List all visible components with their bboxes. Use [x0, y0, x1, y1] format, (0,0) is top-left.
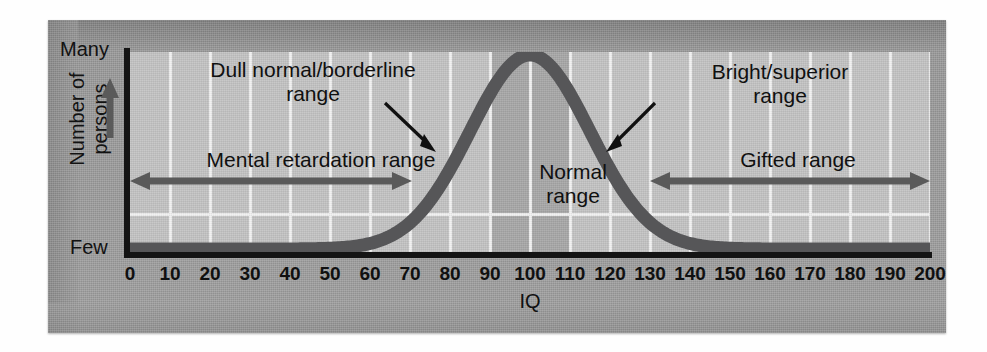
x-tick-140: 140 — [674, 263, 706, 285]
y-axis-title-line2: persons — [89, 83, 111, 154]
x-tick-200: 200 — [914, 263, 946, 285]
x-tick-160: 160 — [754, 263, 786, 285]
bright-superior-line2: range — [753, 84, 807, 107]
x-axis-line — [124, 252, 932, 258]
gridline-110 — [569, 52, 572, 253]
x-axis-title: IQ — [130, 290, 930, 313]
normal-range-line2: range — [546, 184, 600, 207]
mental-retardation-label: Mental retardation range — [126, 148, 516, 172]
y-axis-title-line1: Number of — [66, 72, 88, 165]
x-tick-120: 120 — [594, 263, 626, 285]
gridline-120 — [609, 52, 612, 253]
x-tick-50: 50 — [319, 263, 340, 285]
x-tick-90: 90 — [479, 263, 500, 285]
x-axis-tick-labels: 0102030405060708090100110120130140150160… — [130, 263, 930, 289]
x-tick-70: 70 — [399, 263, 420, 285]
x-tick-0: 0 — [125, 263, 136, 285]
y-axis-title: Number ofpersons — [66, 44, 112, 194]
figure-frame: Many Few Number ofpersons — [48, 20, 946, 333]
x-tick-20: 20 — [199, 263, 220, 285]
x-tick-170: 170 — [794, 263, 826, 285]
x-tick-130: 130 — [634, 263, 666, 285]
normal-range-line1: Normal — [539, 160, 607, 183]
x-tick-60: 60 — [359, 263, 380, 285]
dull-normal-label: Dull normal/borderlinerange — [148, 58, 478, 106]
dull-normal-line2: range — [286, 82, 340, 105]
frame-top-shading — [48, 20, 946, 54]
x-tick-190: 190 — [874, 263, 906, 285]
dull-normal-line1: Dull normal/borderline — [210, 58, 415, 81]
x-tick-150: 150 — [714, 263, 746, 285]
x-tick-30: 30 — [239, 263, 260, 285]
x-tick-40: 40 — [279, 263, 300, 285]
x-tick-100: 100 — [514, 263, 546, 285]
x-tick-110: 110 — [555, 263, 586, 285]
x-tick-80: 80 — [439, 263, 460, 285]
gridline-100 — [529, 52, 532, 253]
horizontal-gridline — [130, 213, 930, 216]
x-tick-10: 10 — [159, 263, 180, 285]
bright-superior-label: Bright/superiorrange — [660, 60, 900, 108]
bright-superior-line1: Bright/superior — [712, 60, 849, 83]
x-tick-180: 180 — [834, 263, 866, 285]
y-axis-bottom-label: Few — [70, 236, 108, 258]
gifted-range-label: Gifted range — [648, 148, 948, 172]
figure-root: Many Few Number ofpersons — [0, 0, 987, 352]
